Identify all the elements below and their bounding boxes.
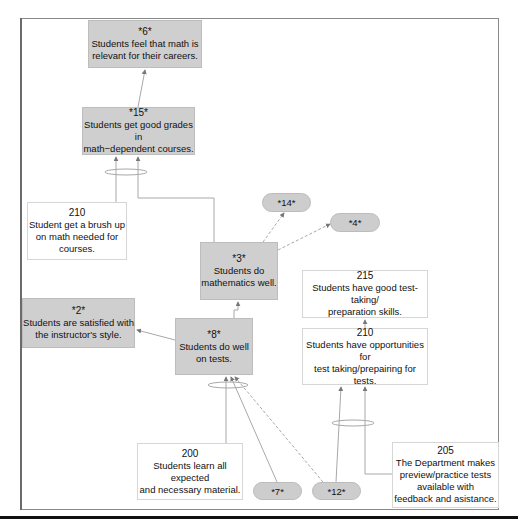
node-id: *7* — [271, 486, 284, 497]
node-id: 200 — [182, 448, 199, 460]
node-200-learn-material: 200 Students learn all expected and nece… — [137, 443, 243, 500]
node-text-line: Students do — [214, 265, 265, 277]
node-210-test-opportunities: 210 Students have opportunities for test… — [302, 328, 428, 385]
node-text-line: test taking/prepairing for tests. — [303, 363, 427, 387]
node-text-line: relevant for their careers. — [92, 50, 198, 62]
node-id: *15* — [129, 107, 148, 119]
node-text-line: on math needed for — [36, 231, 118, 243]
node-id: *14* — [278, 197, 296, 208]
node-text-line: Students get good grades in — [83, 119, 194, 143]
node-id: *3* — [232, 253, 245, 265]
node-text-line: courses. — [59, 243, 95, 255]
node-text-line: and necessary material. — [140, 484, 241, 496]
node-8-well-on-tests: *8* Students do well on tests. — [175, 318, 253, 375]
node-id: 205 — [437, 445, 454, 457]
node-id: 215 — [357, 270, 374, 282]
node-id: 210 — [357, 327, 374, 339]
node-text-line: The Department makes — [396, 457, 495, 469]
node-id: *6* — [138, 26, 151, 38]
node-text-line: the instructor's style. — [35, 329, 121, 341]
node-text-line: Students have opportunities for — [303, 339, 427, 363]
bottom-rule — [0, 516, 518, 519]
node-id: *8* — [207, 329, 220, 341]
node-text-line: preparation skills. — [328, 306, 402, 318]
node-text-line: Student get a brush up — [29, 219, 125, 231]
node-id: *12* — [328, 486, 346, 497]
node-205-practice-tests: 205 The Department makes preview/practic… — [392, 442, 499, 508]
node-id: *2* — [72, 305, 85, 317]
node-text-line: preview/practice tests — [400, 469, 491, 481]
node-12-pill: *12* — [312, 482, 361, 500]
node-215-test-skills: 215 Students have good test-taking/ prep… — [302, 270, 428, 318]
node-text-line: on tests. — [196, 353, 232, 365]
node-text-line: mathematics well. — [201, 277, 277, 289]
node-text-line: math−dependent courses. — [83, 143, 193, 155]
node-14-pill: *14* — [262, 193, 311, 212]
node-6-relevant-careers: *6* Students feel that math is relevant … — [88, 20, 202, 68]
node-id: *4* — [349, 217, 362, 228]
node-210-brush-up: 210 Student get a brush up on math neede… — [27, 202, 127, 260]
node-id: 210 — [69, 207, 86, 219]
node-3-math-well: *3* Students do mathematics well. — [200, 242, 278, 300]
node-2-instructor-style: *2* Students are satisfied with the inst… — [22, 298, 135, 348]
node-text-line: Students feel that math is — [91, 38, 198, 50]
node-text-line: feedback and asistance. — [394, 493, 496, 505]
node-4-pill: *4* — [330, 213, 380, 232]
node-15-good-grades: *15* Students get good grades in math−de… — [82, 107, 195, 155]
node-text-line: available with — [417, 481, 474, 493]
node-text-line: Students do well — [179, 341, 249, 353]
node-text-line: Students learn all expected — [138, 460, 242, 484]
node-7-pill: *7* — [253, 482, 302, 500]
node-text-line: Students have good test-taking/ — [303, 282, 427, 306]
node-text-line: Students are satisfied with — [23, 317, 134, 329]
